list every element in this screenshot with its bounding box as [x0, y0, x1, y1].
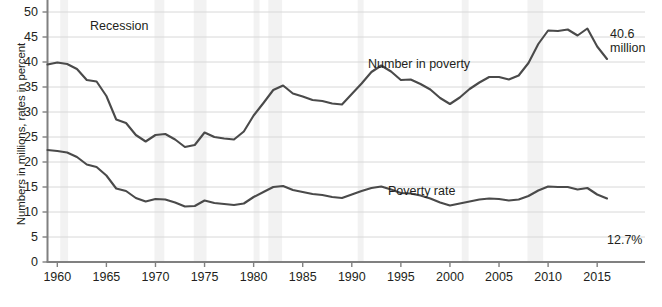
axis-line-group: [43, 0, 646, 267]
x-axis-tick-label: 1980: [234, 271, 274, 284]
x-axis-tick-label: 2010: [528, 271, 568, 284]
x-axis-tick-label: 1975: [185, 271, 225, 284]
y-axis-tick-label: 35: [24, 81, 38, 94]
recession-band: [194, 0, 207, 262]
x-axis-tick-label: 1995: [381, 271, 421, 284]
x-axis-tick-label: 2005: [479, 271, 519, 284]
y-axis-tick-label: 50: [24, 6, 38, 19]
recession-annotation: Recession: [90, 19, 148, 33]
y-axis-tick-label: 45: [24, 31, 38, 44]
y-axis-tick-label: 20: [24, 156, 38, 169]
recession-band: [154, 0, 164, 262]
poverty-chart: Numbers in millions, rates in percent 05…: [0, 0, 662, 307]
number-in-poverty-annotation: Number in poverty: [368, 57, 470, 71]
x-axis-tick-label: 2015: [577, 271, 617, 284]
recession-band: [358, 0, 364, 262]
y-axis-tick-label: 15: [24, 181, 38, 194]
x-axis-tick-label: 1990: [332, 271, 372, 284]
y-axis-tick-label: 40: [24, 56, 38, 69]
y-axis-tick-label: 30: [24, 106, 38, 119]
end-value-number-line2: million: [610, 41, 645, 55]
chart-plot-area: [0, 0, 662, 307]
recession-band: [268, 0, 282, 262]
recession-band: [254, 0, 260, 262]
end-value-number-annotation: 40.6 million: [610, 27, 662, 56]
y-axis-tick-label: 5: [31, 231, 38, 244]
end-value-rate-annotation: 12.7%: [607, 233, 642, 247]
gridline-group: [48, 12, 646, 237]
end-value-number-line1: 40.6: [610, 27, 634, 41]
series-line-number-in-poverty: [48, 29, 608, 148]
y-axis-tick-label: 10: [24, 206, 38, 219]
y-axis-tick-group: 05101520253035404550: [12, 0, 38, 307]
series-line-group: [48, 29, 608, 207]
x-axis-tick-label: 1985: [283, 271, 323, 284]
series-line-poverty-rate: [48, 150, 608, 207]
x-axis-tick-label: 1970: [135, 271, 175, 284]
x-axis-tick-label: 1960: [37, 271, 77, 284]
recession-band: [60, 0, 68, 262]
y-axis-tick-label: 0: [31, 256, 38, 269]
y-axis-tick-label: 25: [24, 131, 38, 144]
recession-band: [462, 0, 469, 262]
x-axis-tick-label: 1965: [86, 271, 126, 284]
poverty-rate-annotation: Poverty rate: [388, 184, 455, 198]
x-axis-tick-label: 2000: [430, 271, 470, 284]
